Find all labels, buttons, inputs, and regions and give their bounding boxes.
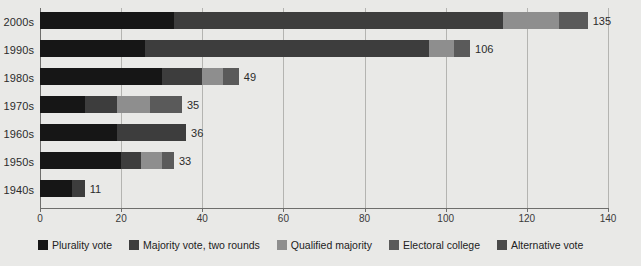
- bar-total-label: 135: [593, 13, 611, 30]
- legend-item[interactable]: Electoral college: [389, 239, 480, 251]
- category-label: 1980s: [0, 69, 34, 87]
- tick-mark-140: [608, 208, 609, 212]
- bar-row: 2000s135: [0, 8, 641, 36]
- stacked-bar: [40, 180, 85, 197]
- tick-mark-60: [283, 208, 284, 212]
- bar-segment: [40, 152, 121, 169]
- bar-segment: [141, 152, 161, 169]
- legend-swatch-icon: [277, 240, 287, 250]
- bar-segment: [121, 152, 141, 169]
- bar-segment: [559, 12, 587, 29]
- stacked-bar: [40, 68, 239, 85]
- tick-mark-40: [202, 208, 203, 212]
- bar-segment: [40, 96, 85, 113]
- category-label: 1990s: [0, 41, 34, 59]
- x-tick-label: 140: [600, 213, 617, 224]
- tick-mark-120: [527, 208, 528, 212]
- bar-segment: [162, 152, 174, 169]
- x-tick-label: 40: [197, 213, 208, 224]
- bar-segment: [150, 96, 182, 113]
- legend-swatch-icon: [389, 240, 399, 250]
- bar-total-label: 106: [475, 41, 493, 58]
- x-tick-label: 20: [116, 213, 127, 224]
- legend-swatch-icon: [38, 240, 48, 250]
- x-tick-label: 120: [519, 213, 536, 224]
- category-label: 1940s: [0, 181, 34, 199]
- bar-segment: [174, 12, 503, 29]
- bar-segment: [85, 96, 117, 113]
- legend-label: Electoral college: [403, 239, 480, 251]
- tick-mark-100: [446, 208, 447, 212]
- bar-total-label: 11: [90, 181, 101, 198]
- chart-legend: Plurality voteMajority vote, two roundsQ…: [0, 236, 641, 254]
- x-tick-label: 0: [37, 213, 43, 224]
- category-label: 1950s: [0, 153, 34, 171]
- x-tick-label: 80: [359, 213, 370, 224]
- stacked-bar: [40, 12, 588, 29]
- bar-segment: [202, 68, 222, 85]
- legend-label: Plurality vote: [52, 239, 112, 251]
- category-label: 1970s: [0, 97, 34, 115]
- bar-total-label: 33: [179, 153, 191, 170]
- bar-segment: [40, 124, 117, 141]
- bar-segment: [40, 180, 72, 197]
- bar-row: 1980s49: [0, 64, 641, 92]
- stacked-bar: [40, 40, 470, 57]
- category-label: 1960s: [0, 125, 34, 143]
- bar-segment: [40, 12, 174, 29]
- legend-swatch-icon: [497, 240, 507, 250]
- bar-segment: [40, 68, 162, 85]
- tick-mark-0: [40, 208, 41, 212]
- legend-item[interactable]: Majority vote, two rounds: [129, 239, 260, 251]
- bar-segment: [145, 40, 429, 57]
- legend-swatch-icon: [129, 240, 139, 250]
- stacked-bar: [40, 96, 182, 113]
- bar-row: 1950s33: [0, 148, 641, 176]
- bar-segment: [223, 68, 239, 85]
- bar-row: 1970s35: [0, 92, 641, 120]
- tick-mark-80: [365, 208, 366, 212]
- x-tick-label: 60: [278, 213, 289, 224]
- legend-label: Alternative vote: [511, 239, 583, 251]
- legend-item[interactable]: Plurality vote: [38, 239, 112, 251]
- bar-total-label: 35: [187, 97, 199, 114]
- tick-mark-20: [121, 208, 122, 212]
- bar-segment: [117, 124, 186, 141]
- legend-label: Majority vote, two rounds: [143, 239, 260, 251]
- stacked-bar: [40, 124, 186, 141]
- bar-segment: [454, 40, 470, 57]
- stacked-bar-chart: 2000s1351990s1061980s491970s351960s36195…: [0, 0, 641, 266]
- bar-segment: [117, 96, 149, 113]
- bar-segment: [72, 180, 84, 197]
- bar-total-label: 36: [191, 125, 203, 142]
- x-axis-line: [40, 208, 609, 209]
- stacked-bar: [40, 152, 174, 169]
- bar-total-label: 49: [244, 69, 256, 86]
- bar-segment: [503, 12, 560, 29]
- bar-row: 1960s36: [0, 120, 641, 148]
- legend-item[interactable]: Qualified majority: [277, 239, 372, 251]
- bar-segment: [162, 68, 203, 85]
- bar-row: 1990s106: [0, 36, 641, 64]
- x-tick-label: 100: [437, 213, 454, 224]
- bar-segment: [429, 40, 453, 57]
- bar-segment: [40, 40, 145, 57]
- bar-row: 1940s11: [0, 176, 641, 204]
- category-label: 2000s: [0, 13, 34, 31]
- legend-label: Qualified majority: [291, 239, 372, 251]
- legend-item[interactable]: Alternative vote: [497, 239, 583, 251]
